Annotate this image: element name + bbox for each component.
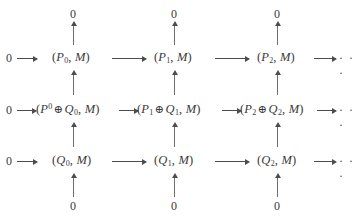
bottom-row-leading-zero: 0 bbox=[6, 155, 12, 167]
commutative-diagram: 0 0 0 0 (P0, M) (P1, M) (P2, M) · · · 0 … bbox=[0, 0, 359, 218]
vertical-arrow-col-1-mid-to-top bbox=[174, 74, 175, 95]
symbol-M: M bbox=[178, 153, 188, 167]
symbol-P: P bbox=[158, 50, 166, 64]
paren-close: ) bbox=[87, 153, 91, 167]
bottom-row-cell-2: (Q2, M) bbox=[257, 154, 296, 168]
comma: , bbox=[273, 50, 277, 64]
vertical-arrow-col-1-zero-to-bot bbox=[174, 177, 175, 197]
bottom-row-ellipsis: · · · bbox=[339, 154, 359, 184]
paren-close: ) bbox=[95, 102, 99, 116]
top-row-arrow-0 bbox=[17, 58, 37, 59]
middle-row-arrow-1 bbox=[119, 110, 138, 111]
comma: , bbox=[275, 153, 279, 167]
vertical-arrow-col-2-to-zero bbox=[277, 25, 278, 45]
symbol-M: M bbox=[289, 102, 299, 116]
top-zero-col-0: 0 bbox=[70, 8, 76, 20]
vertical-arrow-col-2-mid-to-top bbox=[277, 74, 278, 95]
middle-row-arrow-3 bbox=[317, 110, 336, 111]
symbol-P: P bbox=[141, 102, 149, 116]
symbol-Q: Q bbox=[65, 102, 74, 116]
bottom-row-cell-1: (Q1, M) bbox=[154, 154, 193, 168]
middle-row-cell-1: (P1⊕Q1, M) bbox=[137, 103, 200, 117]
paren-close: ) bbox=[299, 102, 303, 116]
paren-close: ) bbox=[189, 153, 193, 167]
symbol-Q: Q bbox=[56, 153, 65, 167]
bottom-row-cell-0: (Q0, M) bbox=[52, 154, 91, 168]
symbol-P: P bbox=[40, 102, 48, 116]
symbol-Q: Q bbox=[166, 102, 175, 116]
bottom-row-arrow-0 bbox=[17, 161, 37, 162]
oplus-icon: ⊕ bbox=[256, 103, 268, 115]
oplus-icon: ⊕ bbox=[52, 103, 64, 115]
middle-row-cell-0: (P0⊕Q0, M) bbox=[36, 103, 99, 117]
vertical-arrow-col-1-to-zero bbox=[174, 25, 175, 45]
vertical-arrow-col-0-zero-to-bot bbox=[73, 177, 74, 197]
comma: , bbox=[68, 50, 72, 64]
comma: , bbox=[179, 102, 183, 116]
top-zero-col-2: 0 bbox=[274, 8, 280, 20]
comma: , bbox=[70, 153, 74, 167]
vertical-arrow-col-0-bot-to-mid bbox=[73, 126, 74, 147]
bottom-zero-col-0: 0 bbox=[70, 200, 76, 212]
symbol-Q: Q bbox=[158, 153, 167, 167]
symbol-M: M bbox=[186, 102, 196, 116]
symbol-P: P bbox=[244, 102, 252, 116]
paren-close: ) bbox=[187, 50, 191, 64]
top-row-leading-zero: 0 bbox=[6, 52, 12, 64]
symbol-M: M bbox=[76, 153, 86, 167]
bottom-row-arrow-2 bbox=[215, 161, 249, 162]
symbol-P: P bbox=[261, 50, 269, 64]
top-row-arrow-2 bbox=[215, 58, 249, 59]
symbol-M: M bbox=[280, 50, 290, 64]
bottom-zero-col-2: 0 bbox=[274, 200, 280, 212]
top-row-cell-0: (P0, M) bbox=[52, 51, 90, 65]
comma: , bbox=[78, 102, 82, 116]
comma: , bbox=[282, 102, 286, 116]
bottom-row-arrow-1 bbox=[112, 161, 146, 162]
top-row-cell-1: (P1, M) bbox=[154, 51, 192, 65]
top-row-cell-2: (P2, M) bbox=[257, 51, 295, 65]
top-zero-col-1: 0 bbox=[171, 8, 177, 20]
symbol-M: M bbox=[85, 102, 95, 116]
comma: , bbox=[172, 153, 176, 167]
symbol-Q: Q bbox=[269, 102, 278, 116]
middle-row-cell-2: (P2⊕Q2, M) bbox=[240, 103, 303, 117]
comma: , bbox=[170, 50, 174, 64]
middle-row-arrow-0 bbox=[17, 110, 36, 111]
top-row-arrow-3 bbox=[314, 58, 336, 59]
paren-close: ) bbox=[290, 50, 294, 64]
middle-row-ellipsis: · · · bbox=[339, 103, 359, 133]
vertical-arrow-col-1-bot-to-mid bbox=[174, 126, 175, 147]
vertical-arrow-col-2-zero-to-bot bbox=[277, 177, 278, 197]
symbol-M: M bbox=[75, 50, 85, 64]
paren-close: ) bbox=[85, 50, 89, 64]
vertical-arrow-col-0-mid-to-top bbox=[73, 74, 74, 95]
bottom-zero-col-1: 0 bbox=[171, 200, 177, 212]
top-row-ellipsis: · · · bbox=[339, 51, 359, 81]
vertical-arrow-col-2-bot-to-mid bbox=[277, 126, 278, 147]
oplus-icon: ⊕ bbox=[153, 103, 165, 115]
paren-close: ) bbox=[196, 102, 200, 116]
paren-close: ) bbox=[292, 153, 296, 167]
middle-row-leading-zero: 0 bbox=[6, 104, 12, 116]
symbol-M: M bbox=[281, 153, 291, 167]
middle-row-arrow-2 bbox=[222, 110, 241, 111]
top-row-arrow-1 bbox=[112, 58, 146, 59]
symbol-P: P bbox=[56, 50, 64, 64]
symbol-M: M bbox=[177, 50, 187, 64]
symbol-Q: Q bbox=[261, 153, 270, 167]
bottom-row-arrow-3 bbox=[314, 161, 336, 162]
vertical-arrow-col-0-to-zero bbox=[73, 25, 74, 45]
